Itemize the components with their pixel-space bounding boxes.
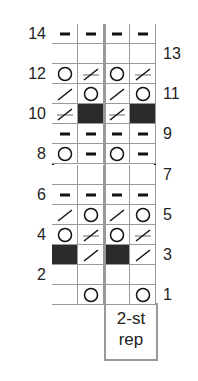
chart-cell (104, 124, 130, 144)
k2tog-slash-icon (104, 205, 130, 225)
purl-dash-icon (78, 185, 104, 205)
chart-cell (130, 44, 156, 64)
row-label-right: 11 (163, 86, 180, 102)
repeat-box: 2-st rep (104, 303, 158, 361)
row-label-left: 14 (28, 26, 46, 42)
chart-cell (130, 225, 156, 245)
chart-cell (104, 24, 130, 44)
chart-cell (52, 245, 78, 265)
chart-cell (104, 185, 130, 205)
chart-cell (104, 104, 130, 124)
purl-dash-icon (52, 185, 78, 205)
chart-cell (130, 144, 156, 164)
chart-cell (130, 124, 156, 144)
chart-cell (104, 285, 130, 305)
yarn-over-circle-icon (104, 64, 130, 84)
knitting-chart (52, 24, 156, 305)
chart-cell (52, 104, 78, 124)
chart-cell (130, 24, 156, 44)
chart-cell (52, 205, 78, 225)
row-label-right: 1 (163, 287, 172, 303)
chart-cell (130, 104, 156, 124)
chart-cell (52, 185, 78, 205)
chart-cell (52, 24, 78, 44)
yarn-over-circle-icon (52, 64, 78, 84)
chart-cell (78, 285, 104, 305)
row-label-left: 8 (37, 146, 46, 162)
purl-dash-icon (78, 124, 104, 144)
purl-dash-icon (104, 185, 130, 205)
chart-cell (130, 265, 156, 285)
chart-cell (130, 165, 156, 185)
k2tog-slash-icon (130, 245, 156, 265)
row-label-left: 12 (28, 66, 46, 82)
chart-cell (78, 64, 104, 84)
crossed-slash-icon (78, 64, 104, 84)
crossed-slash-icon (78, 225, 104, 245)
k2tog-slash-icon (104, 84, 130, 104)
chart-cell (104, 84, 130, 104)
repeat-label-line1: 2-st (106, 308, 156, 329)
yarn-over-circle-icon (52, 225, 78, 245)
purl-dash-icon (78, 24, 104, 44)
yarn-over-circle-icon (104, 144, 130, 164)
yarn-over-circle-icon (130, 285, 156, 305)
chart-cell (78, 265, 104, 285)
chart-cell (78, 205, 104, 225)
chart-cell (130, 205, 156, 225)
chart-cell (130, 285, 156, 305)
chart-cell (104, 44, 130, 64)
chart-cell (78, 144, 104, 164)
chart-cell (78, 104, 104, 124)
chart-cell (52, 165, 78, 185)
row-label-left: 10 (28, 106, 46, 122)
chart-cell (78, 84, 104, 104)
chart-cell (78, 24, 104, 44)
chart-cell (104, 165, 130, 185)
purl-dash-icon (130, 185, 156, 205)
purl-dash-icon (130, 24, 156, 44)
k2tog-slash-icon (52, 84, 78, 104)
chart-cell (78, 185, 104, 205)
chart-cell (104, 205, 130, 225)
row-label-right: 5 (163, 207, 172, 223)
chart-cell (104, 144, 130, 164)
k2tog-slash-icon (52, 205, 78, 225)
yarn-over-circle-icon (130, 205, 156, 225)
chart-cell (130, 84, 156, 104)
repeat-label-line2: rep (106, 329, 156, 350)
row-label-left: 4 (37, 227, 46, 243)
chart-cell (78, 225, 104, 245)
purl-dash-icon (52, 124, 78, 144)
chart-cell (52, 144, 78, 164)
chart-cell (52, 285, 78, 305)
yarn-over-circle-icon (78, 285, 104, 305)
chart-cell (130, 245, 156, 265)
purl-dash-icon (130, 124, 156, 144)
chart-cell (104, 64, 130, 84)
chart-cell (104, 265, 130, 285)
chart-cell (52, 124, 78, 144)
row-label-left: 2 (37, 267, 46, 283)
chart-cell (52, 225, 78, 245)
chart-cell (78, 245, 104, 265)
repeat-separator (104, 24, 106, 305)
purl-dash-icon (104, 24, 130, 44)
yarn-over-circle-icon (78, 205, 104, 225)
row-label-right: 3 (163, 247, 172, 263)
yarn-over-circle-icon (78, 84, 104, 104)
crossed-slash-icon (130, 64, 156, 84)
chart-cell (78, 124, 104, 144)
chart-cell (78, 165, 104, 185)
purl-dash-icon (52, 24, 78, 44)
purl-dash-icon (78, 144, 104, 164)
chart-cell (130, 185, 156, 205)
chart-cell (104, 225, 130, 245)
chart-cell (52, 64, 78, 84)
yarn-over-circle-icon (52, 144, 78, 164)
row-label-right: 7 (163, 167, 172, 183)
purl-dash-icon (130, 144, 156, 164)
yarn-over-circle-icon (104, 225, 130, 245)
chart-cell (52, 84, 78, 104)
chart-cell (78, 44, 104, 64)
